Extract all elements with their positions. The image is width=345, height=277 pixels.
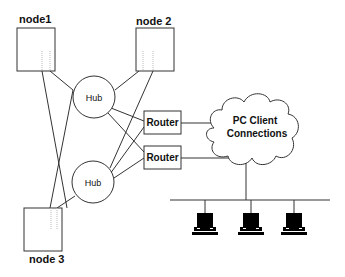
network-diagram: node1 node 2 node 3 Hub Hub Router Route…	[0, 0, 345, 277]
cloud-label-line2: Connections	[227, 128, 288, 139]
link-node3-hub2	[57, 196, 75, 208]
node1-label: node1	[19, 13, 51, 25]
pc3	[281, 213, 307, 235]
link-hub2-router2	[114, 158, 144, 178]
node1: node1	[17, 13, 55, 71]
hub2-label: Hub	[85, 178, 102, 188]
router2: Router	[144, 146, 181, 169]
link-hub1-router1	[111, 108, 144, 121]
router1-label: Router	[146, 117, 178, 128]
computer-icon	[192, 213, 218, 235]
link-node1-hub1	[50, 71, 73, 90]
hub1-label: Hub	[86, 93, 103, 103]
pc1	[192, 213, 218, 235]
computer-icon	[281, 213, 307, 235]
link-node3-hub1	[50, 90, 73, 208]
pc2	[238, 213, 264, 235]
hub1: Hub	[73, 76, 115, 118]
computer-icon	[238, 213, 264, 235]
router2-label: Router	[146, 152, 178, 163]
node3-label: node 3	[29, 253, 64, 265]
router1: Router	[144, 111, 181, 134]
node2: node 2	[136, 15, 174, 71]
link-node2-hub1	[115, 71, 139, 90]
node2-label: node 2	[136, 15, 171, 27]
node3: node 3	[24, 208, 64, 265]
cloud-label-line1: PC Client	[233, 115, 278, 126]
pc-client-cloud: PC Client Connections	[207, 94, 299, 165]
hub2: Hub	[72, 161, 114, 203]
